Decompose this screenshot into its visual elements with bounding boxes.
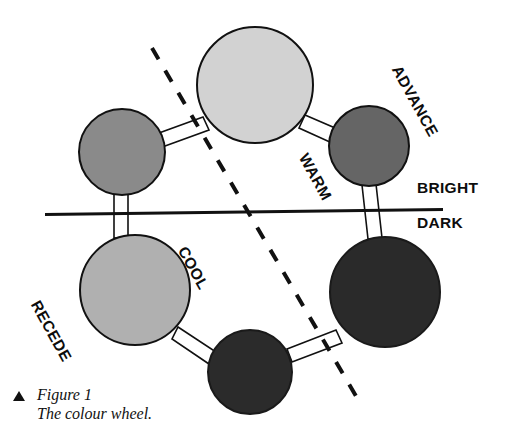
caption-title: Figure 1 <box>37 385 313 404</box>
swatch-top <box>197 27 313 143</box>
band-upper-left-to-lower-left <box>114 193 128 238</box>
triangle-marker-icon <box>13 391 25 401</box>
figure-colour-wheel: BRIGHT DARK ADVANCE WARM COOL RECEDE Fig… <box>0 0 506 436</box>
swatch-upper-right <box>329 106 409 186</box>
label-bright: BRIGHT <box>417 180 478 196</box>
label-dark: DARK <box>417 215 463 231</box>
swatch-upper-left <box>79 109 165 195</box>
swatch-lower-left <box>80 235 190 345</box>
figure-caption: Figure 1 The colour wheel. <box>13 385 313 423</box>
caption-subtitle: The colour wheel. <box>37 404 313 423</box>
swatch-lower-right <box>330 237 440 347</box>
